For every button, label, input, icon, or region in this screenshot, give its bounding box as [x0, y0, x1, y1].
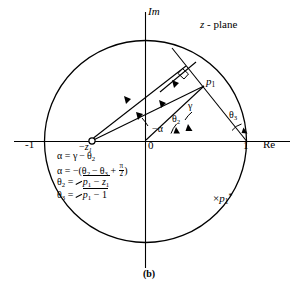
- perpendicular-construction-line: [160, 62, 196, 92]
- arrowhead-ray-upper: [124, 96, 131, 104]
- angle-label-alpha: −α: [152, 124, 163, 134]
- fraction-pi-over-two: π2: [119, 163, 125, 179]
- plane-label: z - plane: [200, 19, 237, 30]
- arrowhead-vector-upper: [172, 80, 179, 88]
- arrowhead-gamma: [186, 124, 193, 131]
- equation-theta3-definition: θ3 = p1 − 1: [57, 188, 128, 201]
- imaginary-axis-label: Im: [148, 6, 160, 17]
- z-plane-figure: Im z - plane Re 0 1 -1 −z1 p1 ×p1* θ3 θ2…: [0, 0, 298, 292]
- angle-label-gamma: γ: [188, 101, 192, 111]
- pole-label-p1-conjugate: ×p1*: [213, 193, 232, 206]
- unit-point-label: 1: [243, 140, 249, 151]
- angle-label-theta2: θ2: [172, 114, 180, 126]
- equation-alpha-gamma-theta2: α = γ − θ2: [57, 150, 128, 163]
- negative-unit-point-label: -1: [25, 139, 34, 150]
- figure-caption: (b): [0, 268, 298, 279]
- angle-label-theta3: θ3: [229, 110, 237, 122]
- equation-theta2-definition: θ2 = p1 − z1: [57, 175, 128, 188]
- arrowhead-theta3: [242, 128, 248, 134]
- origin-label: 0: [148, 140, 154, 151]
- equation-alpha-expanded: α = −(θ2 − θ3 + π2): [57, 163, 128, 176]
- equation-block: α = γ − θ2 α = −(θ2 − θ3 + π2) θ2 = p1 −…: [57, 150, 128, 200]
- pole-label-p1: p1: [206, 76, 215, 89]
- arrowhead-theta2: [174, 127, 181, 134]
- arc-gamma: [185, 112, 192, 120]
- real-axis-label: Re: [263, 139, 275, 150]
